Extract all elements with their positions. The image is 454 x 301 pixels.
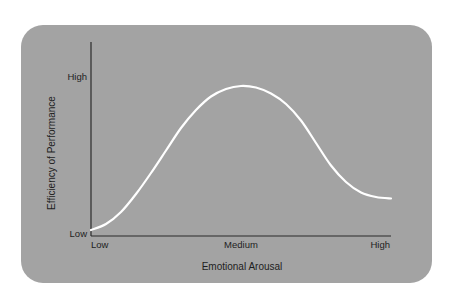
chart-svg: LowHigh LowMediumHigh Emotional Arousal … (0, 0, 454, 301)
y-axis-title: Efficiency of Performance (46, 96, 57, 210)
x-tick-label: High (370, 239, 390, 250)
x-axis-title: Emotional Arousal (202, 261, 283, 272)
x-tick-label: Medium (224, 239, 258, 250)
y-tick-label: High (67, 71, 87, 82)
performance-curve (91, 86, 391, 230)
x-tick-label: Low (91, 239, 109, 250)
y-tick-label: Low (70, 228, 88, 239)
